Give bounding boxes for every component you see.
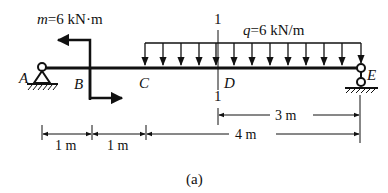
moment-label: m=6 kN·m: [37, 11, 103, 27]
figure-caption: (a): [186, 171, 203, 188]
distributed-load-label: q=6 kN/m: [243, 22, 305, 38]
dimension-bc: 1 m: [107, 138, 129, 153]
dimension-ab: 1 m: [55, 138, 77, 153]
dimension-de: 3 m: [275, 108, 297, 123]
section-label-top: 1: [214, 11, 222, 27]
point-label-c: C: [139, 75, 150, 91]
dimension-lines: [42, 95, 360, 143]
point-label-a: A: [18, 70, 29, 86]
beam-diagram: A m=6 kN·m B q=6 kN/m C 1 1 D: [0, 0, 388, 193]
point-label-b: B: [74, 76, 83, 92]
point-label-e: E: [366, 67, 376, 83]
moment-couple-icon: [58, 40, 122, 100]
section-label-bottom: 1: [214, 88, 222, 104]
distributed-load-icon: [145, 43, 361, 65]
point-label-d: D: [223, 75, 235, 91]
dimension-ce: 4 m: [235, 127, 257, 142]
